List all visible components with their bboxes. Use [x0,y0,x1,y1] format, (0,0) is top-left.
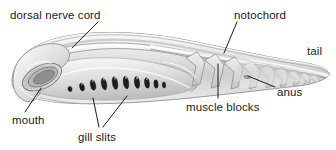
gill-slit [162,82,166,88]
diagram-artwork [0,0,336,150]
label-tail: tail [307,45,322,57]
label-anus: anus [277,86,302,98]
lancelet-diagram: dorsal nerve cord notochord tail anus mu… [0,0,336,150]
label-dorsal-nerve-cord: dorsal nerve cord [10,9,101,21]
label-muscle-blocks: muscle blocks [186,101,260,113]
label-mouth: mouth [12,114,44,126]
label-gill-slits: gill slits [78,131,116,143]
label-notochord: notochord [234,9,286,21]
leader-notochord [224,22,237,53]
